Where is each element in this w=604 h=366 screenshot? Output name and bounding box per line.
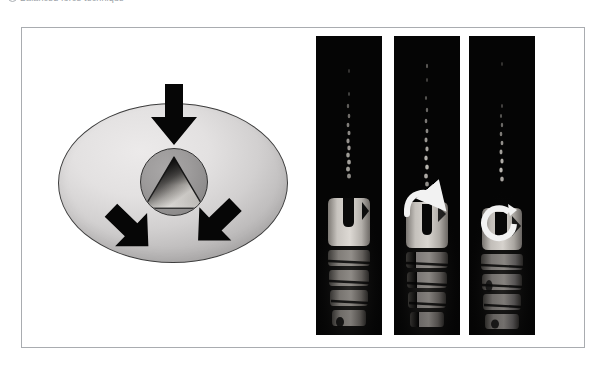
figure-caption-text: Balanced force technique	[8, 0, 124, 4]
figure-frame	[21, 27, 585, 348]
radiograph-row	[316, 36, 574, 340]
figure-caption-label: Balanced force technique	[20, 0, 124, 3]
radiograph-panel-3	[469, 36, 535, 335]
figure-caption: Balanced force technique	[0, 0, 604, 7]
radiograph-panel-1	[316, 36, 382, 335]
radiograph-image-3	[469, 36, 535, 335]
force-arrow-top	[150, 84, 198, 146]
circle-bullet-icon	[8, 0, 17, 2]
balanced-force-schematic	[36, 56, 310, 306]
radiograph-panel-2	[394, 36, 460, 335]
radiograph-image-1	[316, 36, 382, 335]
radiograph-image-2	[394, 36, 460, 335]
force-arrow-bottom-right	[188, 194, 254, 254]
force-arrow-bottom-left	[98, 194, 164, 254]
